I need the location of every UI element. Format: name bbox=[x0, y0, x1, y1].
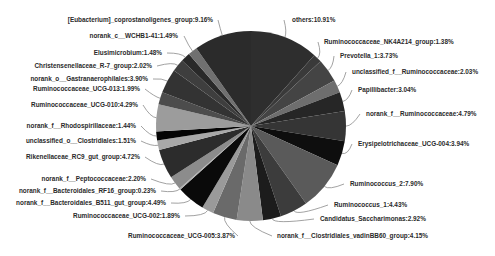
slice-label: Christensenellaceae_R-7_group:2.02% bbox=[34, 62, 152, 70]
leader-line bbox=[157, 64, 178, 66]
slice-label: unclassified_o__Clostridiales:1.51% bbox=[26, 137, 136, 144]
leader-line bbox=[141, 141, 158, 146]
slice-label: norank_f__Ruminococcaceae:4.79% bbox=[366, 110, 477, 117]
slice-label: Ruminococcaceae_NK4A214_group:1.38% bbox=[324, 38, 454, 46]
leader-line bbox=[184, 36, 193, 51]
slice-label: Candidatus_Saccharimonas:2.92% bbox=[320, 215, 426, 222]
leader-line bbox=[272, 219, 314, 222]
pie-slices bbox=[156, 31, 346, 221]
slice-label: Rikenellaceae_RC9_gut_group:4.72% bbox=[26, 153, 140, 161]
leader-line bbox=[218, 20, 222, 35]
leader-line bbox=[161, 189, 180, 192]
slice-label: norank_f__Bacteroidales_B511_gut_group:4… bbox=[16, 199, 166, 207]
slice-label: Ruminococcus_2:7.90% bbox=[350, 180, 423, 187]
leader-line bbox=[346, 114, 360, 126]
slice-label: norank_f__Clostridiales_vadinBB60_group:… bbox=[277, 232, 428, 240]
leader-line bbox=[343, 90, 352, 102]
pie-chart: others:10.91%Ruminococcaceae_NK4A214_gro… bbox=[0, 0, 495, 256]
slice-label: Erysipelotrichaceae_UCG-004:3.94% bbox=[358, 140, 470, 148]
leader-line bbox=[318, 42, 320, 58]
slice-label: Ruminococcaceae_UCG-010:4.29% bbox=[31, 101, 138, 108]
slice-label: norank_f__Peptococcaceae:2.20% bbox=[42, 175, 147, 183]
leader-line bbox=[143, 105, 156, 118]
leader-line bbox=[141, 126, 157, 136]
slice-label: [Eubacterium]_coprostanoligenes_group:9.… bbox=[68, 16, 214, 24]
leader-line bbox=[250, 221, 272, 236]
slice-label: Ruminococcus_1:4.43% bbox=[334, 201, 407, 208]
leader-line bbox=[185, 211, 208, 217]
leader-line bbox=[167, 53, 185, 57]
leader-line bbox=[324, 184, 344, 188]
leader-line bbox=[145, 89, 160, 98]
leader-line bbox=[328, 56, 334, 71]
leader-line bbox=[153, 79, 167, 81]
slice-label: norank_f__Rhodospirillaceae:1.44% bbox=[27, 122, 137, 130]
leader-line bbox=[337, 72, 346, 86]
slice-label: norank_c__WCHB1-41:1.49% bbox=[90, 32, 179, 39]
leader-line bbox=[171, 199, 191, 203]
leader-line bbox=[145, 157, 164, 165]
slice-label: Elusimicrobium:1.48% bbox=[94, 49, 163, 56]
slice-label: Prevotella_1:3.73% bbox=[340, 52, 398, 59]
slice-label: unclassified_f__Ruminococcaceae:2.03% bbox=[352, 68, 478, 75]
slice-label: others:10.91% bbox=[292, 16, 336, 23]
slice-label: Ruminococcaceae_UCG-013:1.99% bbox=[33, 85, 140, 92]
slice-label: norank_o__Gastranaerophilales:3.90% bbox=[30, 75, 148, 83]
slice-label: Ruminococcaceae_UCG-002:1.89% bbox=[73, 212, 180, 219]
leader-line bbox=[151, 179, 175, 184]
slice-label: Ruminococcaceae_UCG-005:3.87% bbox=[128, 232, 235, 239]
slice-label: Papillibacter:3.04% bbox=[358, 86, 417, 94]
slice-label: norank_f__Bacteroidales_RF16_group:0.23% bbox=[19, 187, 156, 195]
leader-line bbox=[284, 20, 286, 37]
